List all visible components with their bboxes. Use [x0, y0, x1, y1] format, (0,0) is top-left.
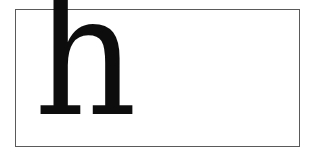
- letter-h-glyph: h: [34, 0, 137, 140]
- specimen-frame: h: [15, 9, 300, 147]
